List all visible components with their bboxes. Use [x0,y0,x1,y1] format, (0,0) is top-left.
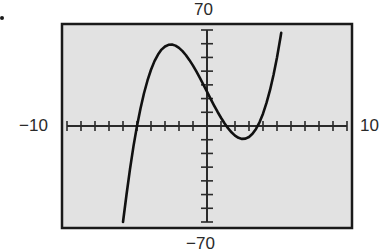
plot-area [0,0,374,252]
graphing-calculator-figure: 70 −70 −10 10 [0,0,374,252]
